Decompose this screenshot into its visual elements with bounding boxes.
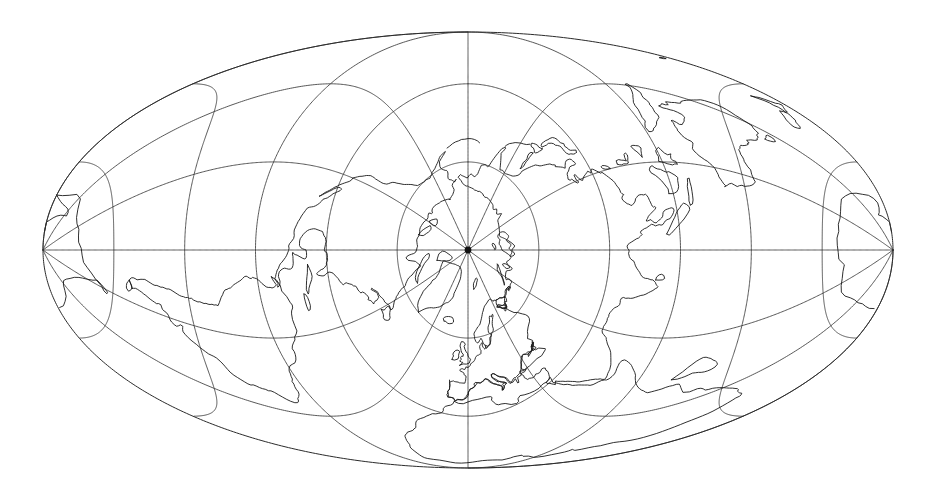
world-map-figure (0, 0, 935, 494)
map-canvas (0, 0, 935, 494)
north-pole-marker (465, 247, 472, 254)
